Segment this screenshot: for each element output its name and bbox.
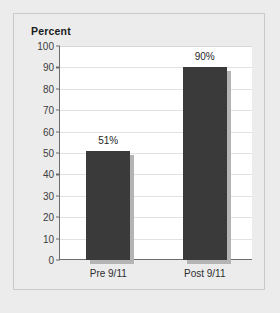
bar-post-9-11[interactable] xyxy=(183,67,227,260)
x-axis-tick-label: Pre 9/11 xyxy=(90,268,127,279)
y-axis-tick-mark xyxy=(56,174,60,175)
chart-card: Percent 100908070605040302010051%Pre 9/1… xyxy=(13,13,265,290)
y-axis-tick-label: 30 xyxy=(43,190,54,201)
y-axis-tick-mark xyxy=(56,153,60,154)
y-axis-tick-mark xyxy=(56,46,60,47)
y-axis-tick-mark xyxy=(56,131,60,132)
y-axis-tick-label: 70 xyxy=(43,105,54,116)
bar-value-label: 90% xyxy=(195,51,215,62)
chart-figure: Percent 100908070605040302010051%Pre 9/1… xyxy=(0,0,280,313)
y-axis-tick-label: 80 xyxy=(43,83,54,94)
chart-title: Percent xyxy=(31,25,71,37)
y-axis-tick-mark xyxy=(56,88,60,89)
y-axis-tick-label: 10 xyxy=(43,233,54,244)
y-axis-tick-mark xyxy=(56,238,60,239)
plot-area: 100908070605040302010051%Pre 9/1190%Post… xyxy=(59,46,252,260)
y-axis-tick-label: 0 xyxy=(48,255,54,266)
y-axis-tick-mark xyxy=(56,217,60,218)
y-axis-tick-label: 60 xyxy=(43,126,54,137)
y-axis-tick-mark xyxy=(56,110,60,111)
y-axis-tick-label: 20 xyxy=(43,212,54,223)
y-axis-tick-label: 40 xyxy=(43,169,54,180)
bar-value-label: 51% xyxy=(98,135,118,146)
y-axis-tick-label: 100 xyxy=(37,41,54,52)
y-axis-tick-mark xyxy=(56,260,60,261)
y-axis-tick-label: 90 xyxy=(43,62,54,73)
y-axis-tick-mark xyxy=(56,67,60,68)
gridline xyxy=(60,46,252,47)
y-axis-tick-label: 50 xyxy=(43,148,54,159)
y-axis-tick-mark xyxy=(56,195,60,196)
bar-pre-9-11[interactable] xyxy=(86,151,130,260)
x-axis-tick-label: Post 9/11 xyxy=(184,268,226,279)
